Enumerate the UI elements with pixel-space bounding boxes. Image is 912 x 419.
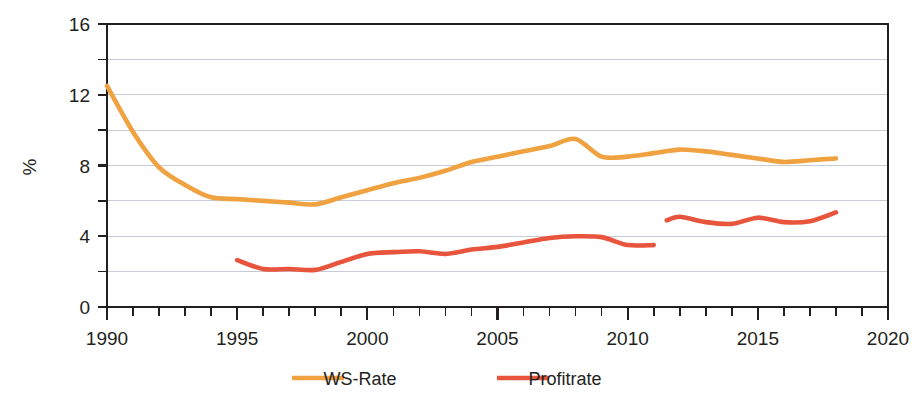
x-tick-label: 2000 [346, 328, 388, 349]
x-tick-label: 1995 [216, 328, 258, 349]
y-tick-label: 8 [79, 156, 90, 177]
gridlines [107, 59, 888, 271]
x-tick-label: 1990 [86, 328, 128, 349]
x-tick-label: 2010 [607, 328, 649, 349]
line-chart: 0481216 1990199520002005201020152020 % W… [0, 0, 912, 419]
x-axis-ticks [107, 307, 888, 320]
y-tick-label: 4 [79, 226, 90, 247]
y-tick-label: 12 [69, 85, 90, 106]
y-axis-tick-labels: 0481216 [69, 14, 91, 318]
chart-legend: WS-RateProfitrate [292, 369, 602, 389]
series-line-ws-rate [107, 86, 836, 205]
y-tick-label: 0 [79, 297, 90, 318]
series-lines [107, 86, 836, 270]
x-axis-tick-labels: 1990199520002005201020152020 [86, 328, 909, 349]
legend-label-profitrate: Profitrate [528, 369, 601, 389]
x-tick-label: 2015 [737, 328, 779, 349]
y-axis-ticks [98, 24, 107, 307]
legend-label-ws-rate: WS-Rate [323, 369, 396, 389]
chart-container: 0481216 1990199520002005201020152020 % W… [0, 0, 912, 419]
x-tick-label: 2005 [476, 328, 518, 349]
series-line-profitrate [237, 236, 654, 270]
y-axis-title: % [19, 158, 40, 175]
y-tick-label: 16 [69, 14, 90, 35]
series-line-profitrate [667, 212, 836, 224]
x-tick-label: 2020 [867, 328, 909, 349]
